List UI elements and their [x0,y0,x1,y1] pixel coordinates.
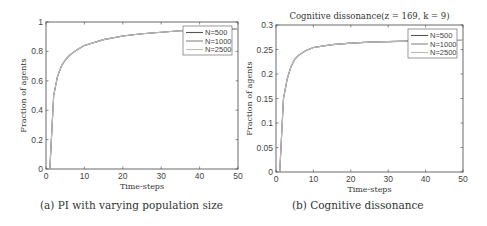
y-tick-label: 0.05 [256,143,273,153]
x-tick-label: 40 [421,174,431,184]
y-tick-label: 0 [38,164,43,174]
x-tick-label: 30 [383,174,393,184]
legend-label: N=2500 [430,48,456,57]
y-tick-label: 0 [268,167,273,177]
y-tick-label: 1 [38,17,43,27]
x-axis-label: Time-steps [120,182,164,191]
y-axis-label: Fraction of agents [19,58,28,132]
x-tick-label: 10 [309,174,319,184]
chart-panel-b: 0102030405000.050.10.150.20.250.3N=500N=… [243,0,487,226]
y-tick-label: 0.2 [261,69,273,79]
y-tick-label: 0.2 [31,135,43,145]
x-tick-label: 10 [80,171,90,181]
x-tick-label: 50 [233,171,243,181]
x-tick-label: 0 [44,171,49,181]
y-tick-label: 0.4 [31,105,43,115]
y-axis-label: Fraction of agents [245,61,254,135]
y-tick-label: 0.15 [256,94,273,104]
caption-b: (b) Cognitive dissonance [292,199,424,211]
chart-panel-a: 0102030405000.20.40.60.81N=500N=1000N=25… [0,0,243,226]
x-tick-label: 20 [346,174,356,184]
x-tick-label: 40 [195,171,205,181]
chart-a-svg: 0102030405000.20.40.60.81N=500N=1000N=25… [0,0,243,226]
x-tick-label: 50 [458,174,468,184]
y-tick-label: 0.25 [256,45,273,55]
x-tick-label: 30 [156,171,166,181]
x-tick-label: 0 [274,174,279,184]
chart-title: Cognitive dissonance(z = 169, k = 9) [289,11,449,21]
y-tick-label: 0.6 [31,76,43,86]
caption-a: (a) PI with varying population size [40,199,223,211]
y-tick-label: 0.8 [31,46,43,56]
y-tick-label: 0.3 [261,20,273,30]
y-tick-label: 0.1 [261,118,273,128]
x-tick-label: 20 [118,171,128,181]
chart-b-svg: 0102030405000.050.10.150.20.250.3N=500N=… [243,0,487,226]
legend-label: N=2500 [205,45,231,54]
x-axis-label: Time-steps [347,185,391,194]
